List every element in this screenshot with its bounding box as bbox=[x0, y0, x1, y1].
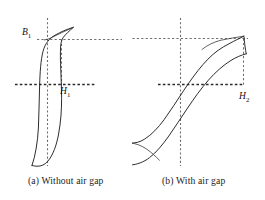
field-strength-label-h2-subscript: 2 bbox=[246, 96, 249, 103]
figure-container: B1 H1 H2 (a) Without air g bbox=[0, 0, 265, 200]
hysteresis-plot-with-air-gap bbox=[132, 0, 265, 175]
loop-upper-tip bbox=[244, 36, 246, 54]
flux-density-label: B1 bbox=[22, 28, 31, 40]
figure-panel-a: B1 H1 bbox=[0, 0, 132, 200]
caption-panel-b: (b) With air gap bbox=[162, 176, 225, 187]
loop-lower-inner-edge bbox=[132, 143, 159, 160]
loop-descending-branch bbox=[132, 36, 244, 143]
field-strength-label-h2-base: H bbox=[239, 91, 246, 101]
caption-panel-a: (a) Without air gap bbox=[28, 176, 104, 187]
figure-panel-b: H2 bbox=[132, 0, 265, 200]
field-strength-label-h1: H1 bbox=[60, 87, 70, 99]
field-strength-label-h1-base: H bbox=[60, 86, 67, 96]
flux-density-label-subscript: 1 bbox=[28, 32, 31, 39]
loop-ascending-branch bbox=[132, 54, 246, 165]
field-strength-label-h2: H2 bbox=[239, 92, 249, 104]
field-strength-label-h1-subscript: 1 bbox=[67, 91, 70, 98]
